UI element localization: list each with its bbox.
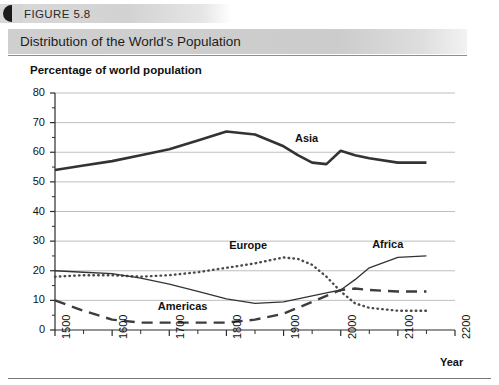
y-tick-label: 80	[23, 86, 45, 98]
chart-plot-area: 0102030405060708015001600170018001900200…	[0, 0, 499, 385]
series-line-asia	[55, 132, 426, 171]
y-tick-label: 30	[23, 234, 45, 246]
x-tick-label: 2000	[346, 315, 358, 339]
y-tick-label: 70	[23, 116, 45, 128]
series-label-europe: Europe	[229, 239, 267, 251]
y-tick-label: 60	[23, 145, 45, 157]
y-tick-label: 0	[23, 323, 45, 335]
x-tick-label: 1600	[117, 315, 129, 339]
x-tick-label: 2100	[403, 315, 415, 339]
x-tick-label: 1900	[289, 315, 301, 339]
line-chart-svg	[0, 0, 499, 385]
series-label-asia: Asia	[295, 132, 318, 144]
y-tick-label: 40	[23, 205, 45, 217]
y-tick-label: 50	[23, 175, 45, 187]
series-label-africa: Africa	[372, 238, 403, 250]
series-label-americas: Americas	[158, 300, 208, 312]
x-axis-title: Year	[440, 356, 463, 368]
y-tick-label: 20	[23, 264, 45, 276]
series-line-europe	[55, 257, 426, 310]
x-tick-label: 1700	[174, 315, 186, 339]
bottom-divider	[8, 378, 491, 379]
x-tick-label: 1800	[231, 315, 243, 339]
series-line-africa	[55, 256, 426, 303]
x-tick-label: 2200	[460, 315, 472, 339]
x-tick-label: 1500	[60, 315, 72, 339]
y-tick-label: 10	[23, 293, 45, 305]
